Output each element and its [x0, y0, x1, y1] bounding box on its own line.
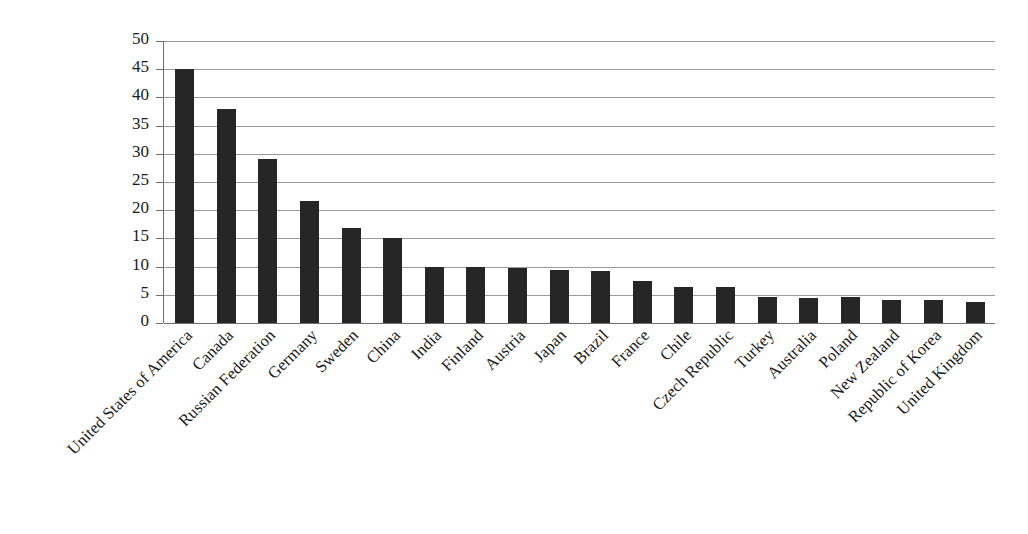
plot-area: [163, 41, 995, 323]
bar: [674, 287, 693, 323]
y-tick-mark: [156, 267, 163, 268]
bar: [924, 300, 943, 323]
y-tick-mark: [156, 126, 163, 127]
bar-slot: [871, 41, 913, 323]
bar-slot: [746, 41, 788, 323]
bar: [633, 281, 652, 323]
x-axis-tick-group: United States of AmericaCanadaRussian Fe…: [163, 325, 995, 525]
bar-slot: [788, 41, 830, 323]
y-tick-label: 25: [103, 171, 149, 188]
bar: [217, 109, 236, 323]
bar: [508, 268, 527, 323]
bar-slot: [830, 41, 872, 323]
bar-chart-figure: Million cubic meters 5045403530252015105…: [0, 0, 1028, 534]
bar-slot: [538, 41, 580, 323]
y-axis-tick-group: 50454035302520151050: [0, 41, 163, 323]
y-tick-label: 10: [103, 256, 149, 273]
bar-slot: [705, 41, 747, 323]
bar-slot: [580, 41, 622, 323]
bar-slot: [247, 41, 289, 323]
bar-slot: [954, 41, 996, 323]
bar: [966, 302, 985, 323]
bar: [383, 238, 402, 323]
y-tick-label: 20: [103, 199, 149, 216]
y-tick-mark: [156, 97, 163, 98]
bar: [841, 297, 860, 323]
bars-layer: [164, 41, 995, 323]
y-tick-mark: [156, 238, 163, 239]
y-tick-label: 5: [103, 284, 149, 301]
bar: [425, 267, 444, 323]
bar-slot: [206, 41, 248, 323]
y-tick-mark: [156, 182, 163, 183]
y-tick-label: 0: [103, 312, 149, 329]
bar: [758, 297, 777, 323]
bar-slot: [164, 41, 206, 323]
y-tick-label: 45: [103, 58, 149, 75]
bar: [466, 267, 485, 323]
bar-slot: [622, 41, 664, 323]
bar: [342, 228, 361, 323]
bar: [175, 69, 194, 323]
y-tick-mark: [156, 210, 163, 211]
bar: [716, 287, 735, 323]
y-tick-mark: [156, 41, 163, 42]
bar: [550, 270, 569, 323]
y-axis-title: Million cubic meters: [78, 0, 100, 40]
y-tick-label: 15: [103, 227, 149, 244]
bar-slot: [497, 41, 539, 323]
axis-baseline: [164, 323, 995, 324]
y-tick-label: 50: [103, 30, 149, 47]
bar: [258, 159, 277, 323]
bar: [591, 271, 610, 323]
bar-slot: [913, 41, 955, 323]
bar-slot: [455, 41, 497, 323]
bar: [799, 298, 818, 323]
y-tick-mark: [156, 69, 163, 70]
bar-slot: [372, 41, 414, 323]
bar: [882, 300, 901, 323]
y-tick-label: 30: [103, 143, 149, 160]
bar-slot: [289, 41, 331, 323]
bar: [300, 201, 319, 323]
bar-slot: [414, 41, 456, 323]
y-tick-mark: [156, 323, 163, 324]
bar-slot: [663, 41, 705, 323]
bar-slot: [330, 41, 372, 323]
y-tick-mark: [156, 154, 163, 155]
x-tick-label: Canada: [0, 327, 237, 534]
y-tick-mark: [156, 295, 163, 296]
y-tick-label: 35: [103, 115, 149, 132]
y-tick-label: 40: [103, 86, 149, 103]
